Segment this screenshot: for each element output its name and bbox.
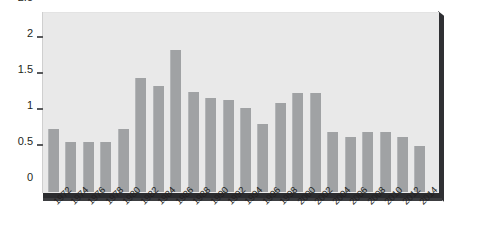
- y-axis-tick-label: 0.5: [18, 136, 33, 147]
- y-axis-tick-label: 2: [27, 28, 33, 39]
- y-axis-tick-label: 0: [27, 172, 33, 183]
- bar: [362, 132, 373, 192]
- bar: [223, 100, 234, 192]
- y-axis-tick: 2: [0, 36, 43, 37]
- bar: [153, 86, 164, 192]
- y-axis-tick: 0: [0, 180, 43, 181]
- bar: [48, 129, 59, 192]
- y-axis-tick-label: 1.5: [18, 64, 33, 75]
- bar: [205, 98, 216, 192]
- y-axis-ticks: 00.511.522.5: [0, 0, 43, 181]
- y-axis-tick-label: 1: [27, 100, 33, 111]
- bar: [380, 132, 391, 192]
- bar: [65, 142, 76, 192]
- y-axis-tick: 1.5: [0, 72, 43, 73]
- bar: [257, 124, 268, 192]
- y-axis-tick-label: 2.5: [18, 0, 33, 3]
- bar: [240, 108, 251, 192]
- y-axis-tick: 0.5: [0, 144, 43, 145]
- x-axis-labels: 1972197419761978198019821984198619881990…: [43, 199, 443, 235]
- bar: [327, 132, 338, 192]
- bar-chart: 00.511.522.5 197219741976197819801982198…: [0, 0, 496, 235]
- bar: [310, 93, 321, 192]
- bar: [292, 93, 303, 192]
- bar: [345, 137, 356, 192]
- bar: [100, 142, 111, 192]
- bar: [135, 78, 146, 192]
- bar: [170, 50, 181, 192]
- y-axis-tick: 1: [0, 108, 43, 109]
- bar: [83, 142, 94, 192]
- bar: [188, 92, 199, 192]
- y-axis-tick: 2.5: [0, 0, 43, 1]
- bar: [118, 129, 129, 192]
- bar: [397, 137, 408, 192]
- bar: [275, 103, 286, 192]
- bar-series: [43, 12, 439, 192]
